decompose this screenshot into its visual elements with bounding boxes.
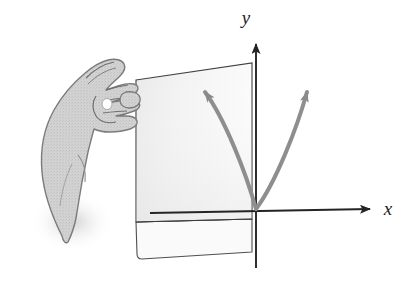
y-axis-label: y xyxy=(240,7,251,28)
illustration-canvas: y x xyxy=(0,0,405,281)
card-shading xyxy=(136,63,252,222)
index-fingertip xyxy=(120,92,140,108)
paper-card xyxy=(136,63,252,259)
card-bottom-flap xyxy=(136,219,252,259)
fingernail-highlight xyxy=(102,99,112,110)
figure-container: y x xyxy=(0,0,405,281)
x-axis-label: x xyxy=(383,198,393,219)
